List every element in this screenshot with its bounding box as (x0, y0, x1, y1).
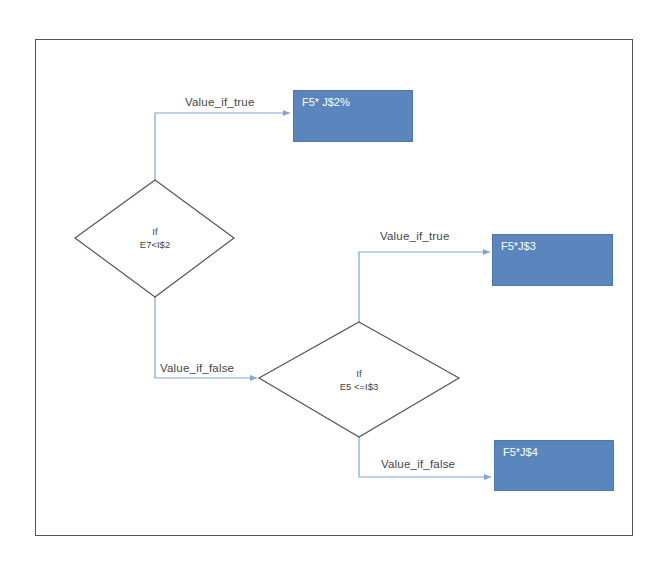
decision-1-keyword: If (140, 225, 170, 238)
connector-d2-true (359, 252, 490, 322)
edge-label-d1-true: Value_if_true (185, 96, 255, 108)
connector-d1-true (155, 113, 290, 180)
decision-2-keyword: If (340, 367, 379, 380)
decision-2-text: If E5 <=I$3 (340, 367, 379, 393)
edge-label-d2-true: Value_if_true (380, 230, 450, 242)
result-box-2: F5*J$3 (492, 234, 613, 286)
connector-d2-false (359, 437, 491, 477)
result-2-formula: F5*J$3 (501, 240, 536, 252)
result-3-formula: F5*J$4 (503, 446, 538, 458)
decision-2-condition: E5 <=I$3 (340, 380, 379, 393)
decision-1-text: If E7<I$2 (140, 225, 170, 251)
result-box-3: F5*J$4 (494, 440, 614, 491)
result-box-1: F5* J$2% (293, 90, 413, 142)
edge-label-d1-false: Value_if_false (160, 362, 234, 374)
edge-label-d2-false: Value_if_false (381, 458, 455, 470)
decision-1-condition: E7<I$2 (140, 238, 170, 251)
result-1-formula: F5* J$2% (302, 96, 350, 108)
